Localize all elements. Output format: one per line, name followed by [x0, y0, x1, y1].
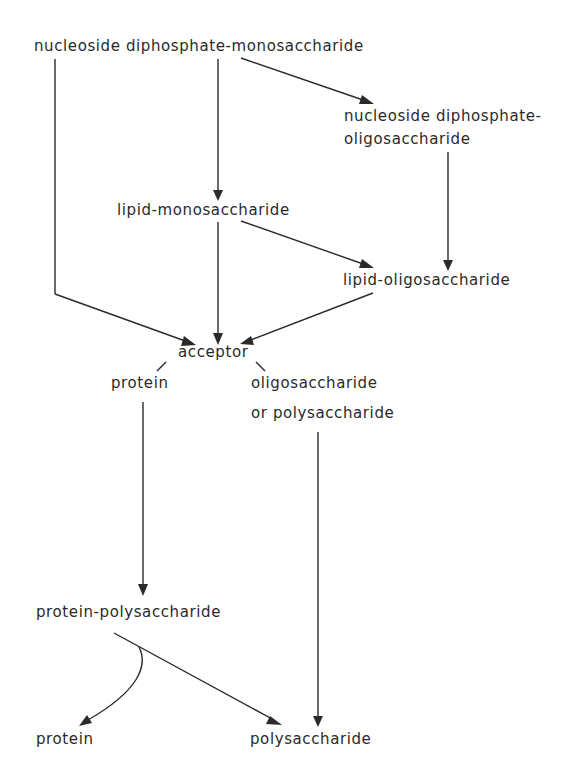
- node-nucleoside-diphosphate-monosaccharide: nucleoside diphosphate-monosaccharide: [34, 39, 364, 54]
- arrow-lipidmono-to-lipidoligo: [241, 221, 374, 268]
- arrow-ndpmono-to-lipidmono: [213, 59, 223, 201]
- tick-acceptor-to-oligo: [256, 362, 265, 371]
- node-acceptor-protein: protein: [111, 376, 169, 391]
- node-lipid-oligosaccharide: lipid-oligosaccharide: [343, 273, 510, 288]
- node-acceptor-oligosaccharide-line2: or polysaccharide: [251, 406, 394, 421]
- node-protein-polysaccharide: protein-polysaccharide: [36, 605, 221, 620]
- arrow-lipidmono-to-acceptor: [213, 222, 223, 345]
- node-nucleoside-diphosphate-oligosaccharide-line2: oligosaccharide: [344, 132, 471, 147]
- arrow-lipidoligo-to-acceptor: [240, 293, 373, 345]
- arrow-proteinpoly-to-protein: [79, 647, 142, 726]
- node-acceptor: acceptor: [178, 345, 248, 360]
- tick-acceptor-to-protein: [157, 362, 166, 371]
- arrow-ndpoligo-to-lipidoligo: [443, 152, 453, 271]
- arrow-ndpmono-to-ndpoligo: [241, 58, 374, 104]
- arrow-protein-to-proteinpoly: [138, 402, 148, 596]
- node-product-polysaccharide: polysaccharide: [250, 732, 371, 747]
- node-product-protein: protein: [36, 732, 94, 747]
- node-nucleoside-diphosphate-oligosaccharide-line1: nucleoside diphosphate-: [344, 109, 542, 124]
- arrow-oligopoly-to-polysaccharide: [313, 432, 323, 727]
- arrow-proteinpoly-to-polysaccharide: [114, 633, 282, 725]
- pathway-diagram: nucleoside diphosphate-monosaccharide nu…: [0, 0, 576, 761]
- node-lipid-monosaccharide: lipid-monosaccharide: [117, 203, 290, 218]
- node-acceptor-oligosaccharide-line1: oligosaccharide: [251, 376, 378, 391]
